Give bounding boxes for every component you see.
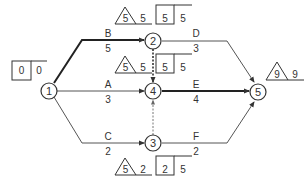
node-1-box-value: 0 (19, 65, 25, 76)
activity-a-name: A (105, 79, 112, 90)
node-4-label: 4 (150, 85, 156, 97)
node-3-annotation: 5 2 2 5 (115, 156, 192, 175)
node-2-annotation: 5 5 5 5 (115, 5, 192, 24)
node-5-triangle-side: 9 (292, 69, 298, 80)
node-2-triangle-side: 5 (140, 13, 146, 24)
activity-a-duration: 3 (105, 94, 111, 105)
activity-b-arrow (54, 40, 144, 83)
node-2: 2 (145, 33, 161, 49)
node-2-box-value: 5 (162, 13, 168, 24)
node-4-triangle-side: 5 (140, 62, 146, 73)
node-1-annotation: 0 0 (12, 61, 47, 80)
activity-f-duration: 2 (193, 146, 199, 157)
node-3: 3 (145, 135, 161, 151)
node-3-box-side: 5 (180, 164, 186, 175)
node-2-triangle-value: 5 (123, 13, 129, 24)
node-5-label: 5 (255, 86, 261, 98)
activity-e-name: E (193, 79, 200, 90)
node-5: 5 (250, 84, 266, 100)
node-1-box-side: 0 (36, 65, 42, 76)
node-3-label: 3 (150, 137, 156, 149)
node-1-label: 1 (46, 85, 52, 97)
activity-b-name: B (105, 28, 112, 39)
node-5-triangle-value: 9 (274, 69, 280, 80)
activity-f-arrow (162, 102, 254, 143)
activity-e-duration: 4 (193, 94, 199, 105)
activity-d-name: D (192, 28, 199, 39)
activity-c-name: C (104, 131, 111, 142)
node-3-box-value: 2 (162, 164, 168, 175)
node-1: 1 (41, 83, 57, 99)
activity-f-name: F (193, 131, 199, 142)
activity-c-arrow (54, 97, 144, 143)
activity-d-duration: 3 (193, 43, 199, 54)
network-diagram: B 5 A 3 C 2 D 3 E 4 F 2 1 2 (0, 0, 307, 184)
node-4: 4 (145, 83, 161, 99)
node-5-annotation: 9 9 (266, 62, 304, 80)
activity-b-duration: 5 (105, 43, 111, 54)
node-3-triangle-side: 2 (140, 164, 146, 175)
node-4-box-value: 5 (162, 62, 168, 73)
node-2-label: 2 (150, 35, 156, 47)
activity-d-arrow (162, 41, 254, 82)
node-2-box-side: 5 (180, 13, 186, 24)
node-3-triangle-value: 5 (123, 164, 129, 175)
node-4-triangle-value: 5 (123, 62, 129, 73)
activity-c-duration: 2 (105, 146, 111, 157)
node-4-box-side: 5 (180, 62, 186, 73)
